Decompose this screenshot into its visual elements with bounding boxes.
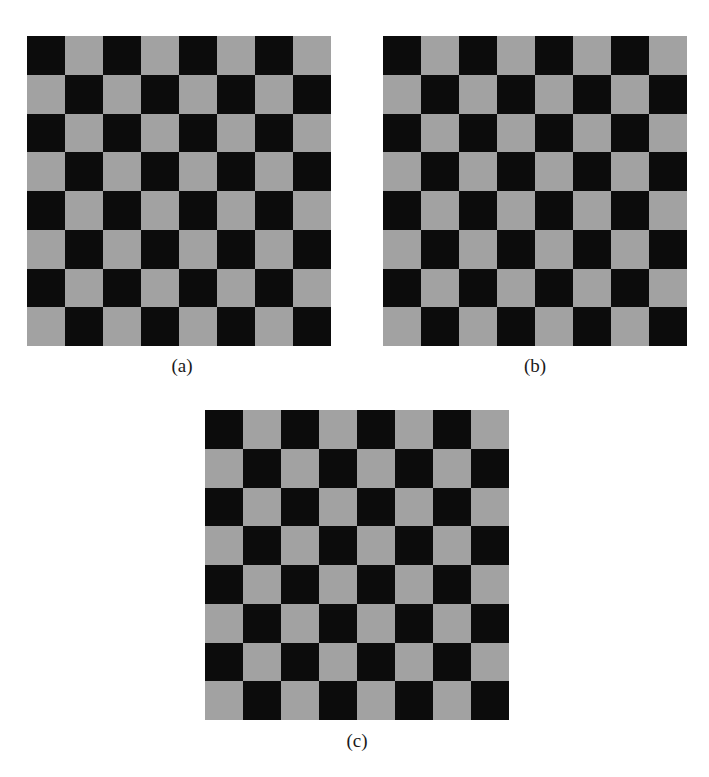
light-square (535, 230, 573, 269)
dark-square (395, 526, 433, 565)
dark-square (357, 565, 395, 604)
dark-square (433, 565, 471, 604)
light-square (293, 269, 331, 308)
light-square (255, 152, 293, 191)
light-square (281, 681, 319, 720)
light-square (421, 191, 459, 230)
dark-square (459, 114, 497, 153)
dark-square (421, 75, 459, 114)
dark-square (281, 488, 319, 527)
dark-square (649, 75, 687, 114)
dark-square (383, 191, 421, 230)
light-square (217, 269, 255, 308)
light-square (255, 75, 293, 114)
dark-square (459, 269, 497, 308)
dark-square (649, 307, 687, 346)
light-square (141, 114, 179, 153)
light-square (535, 152, 573, 191)
dark-square (141, 75, 179, 114)
light-square (293, 36, 331, 75)
light-square (383, 230, 421, 269)
dark-square (281, 643, 319, 682)
dark-square (535, 114, 573, 153)
light-square (357, 449, 395, 488)
dark-square (293, 307, 331, 346)
dark-square (433, 643, 471, 682)
dark-square (395, 604, 433, 643)
dark-square (459, 191, 497, 230)
light-square (217, 114, 255, 153)
dark-square (255, 114, 293, 153)
dark-square (573, 152, 611, 191)
dark-square (27, 114, 65, 153)
dark-square (471, 449, 509, 488)
light-square (535, 307, 573, 346)
light-square (27, 307, 65, 346)
dark-square (649, 152, 687, 191)
light-square (497, 114, 535, 153)
light-square (65, 191, 103, 230)
dark-square (293, 152, 331, 191)
light-square (459, 152, 497, 191)
light-square (649, 269, 687, 308)
light-square (179, 152, 217, 191)
dark-square (243, 604, 281, 643)
dark-square (179, 269, 217, 308)
light-square (217, 191, 255, 230)
dark-square (179, 36, 217, 75)
light-square (65, 269, 103, 308)
light-square (65, 36, 103, 75)
dark-square (611, 114, 649, 153)
light-square (649, 36, 687, 75)
dark-square (497, 75, 535, 114)
dark-square (573, 230, 611, 269)
light-square (433, 449, 471, 488)
light-square (205, 681, 243, 720)
dark-square (421, 307, 459, 346)
dark-square (319, 681, 357, 720)
dark-square (281, 565, 319, 604)
light-square (205, 526, 243, 565)
dark-square (65, 152, 103, 191)
dark-square (103, 36, 141, 75)
dark-square (27, 269, 65, 308)
dark-square (535, 269, 573, 308)
light-square (535, 75, 573, 114)
dark-square (573, 75, 611, 114)
light-square (383, 75, 421, 114)
light-square (179, 75, 217, 114)
light-square (395, 410, 433, 449)
dark-square (27, 191, 65, 230)
light-square (357, 681, 395, 720)
dark-square (243, 449, 281, 488)
dark-square (649, 230, 687, 269)
light-square (179, 230, 217, 269)
light-square (383, 152, 421, 191)
checkerboard-c (205, 410, 509, 720)
light-square (459, 75, 497, 114)
dark-square (255, 36, 293, 75)
dark-square (217, 75, 255, 114)
dark-square (319, 526, 357, 565)
light-square (649, 114, 687, 153)
light-square (243, 565, 281, 604)
light-square (205, 449, 243, 488)
dark-square (103, 269, 141, 308)
dark-square (395, 681, 433, 720)
light-square (103, 75, 141, 114)
light-square (179, 307, 217, 346)
light-square (573, 269, 611, 308)
light-square (357, 604, 395, 643)
light-square (471, 643, 509, 682)
dark-square (357, 643, 395, 682)
light-square (319, 488, 357, 527)
dark-square (255, 191, 293, 230)
light-square (395, 488, 433, 527)
light-square (205, 604, 243, 643)
light-square (611, 75, 649, 114)
light-square (27, 75, 65, 114)
dark-square (255, 269, 293, 308)
dark-square (471, 604, 509, 643)
light-square (611, 230, 649, 269)
light-square (293, 114, 331, 153)
